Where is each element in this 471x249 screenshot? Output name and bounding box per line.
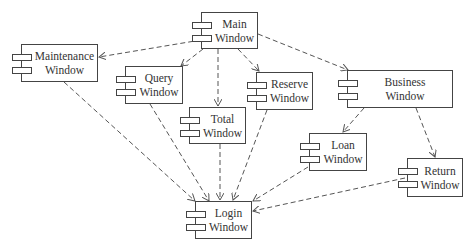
component-return[interactable]: Return Window xyxy=(407,158,463,197)
component-label: Return Window xyxy=(420,159,460,196)
component-tab-icon xyxy=(338,80,358,87)
component-loan[interactable]: Loan Window xyxy=(309,133,367,171)
component-tab-icon xyxy=(300,143,320,150)
component-tab-icon xyxy=(186,211,206,218)
component-tab-icon xyxy=(300,156,320,163)
dependency-main-to-business xyxy=(258,34,348,70)
component-tab-icon xyxy=(186,224,206,231)
component-tab-icon xyxy=(116,76,136,83)
component-tab-icon xyxy=(180,117,200,124)
component-label: Total Window xyxy=(202,108,243,143)
component-label: Loan Window xyxy=(322,134,364,170)
dependency-loan-to-login xyxy=(253,167,308,201)
component-tab-icon xyxy=(247,95,267,102)
component-total[interactable]: Total Window xyxy=(189,107,246,144)
component-tab-icon xyxy=(116,89,136,96)
component-label: Query Window xyxy=(138,67,180,103)
component-tab-icon xyxy=(338,93,358,100)
dependency-business-to-return xyxy=(416,108,435,157)
dependency-main-to-maintenance xyxy=(99,40,201,57)
component-tab-icon xyxy=(180,130,200,137)
component-query[interactable]: Query Window xyxy=(125,66,183,104)
component-tab-icon xyxy=(398,181,418,188)
component-label: Reserve Window xyxy=(269,73,310,109)
dependency-business-to-loan xyxy=(343,108,364,132)
dependency-main-to-query xyxy=(181,49,203,66)
dependency-return-to-login xyxy=(253,178,405,211)
component-reserve[interactable]: Reserve Window xyxy=(256,72,313,110)
component-main[interactable]: Main Window xyxy=(201,12,258,49)
component-label: Login Window xyxy=(208,202,249,238)
component-label: Maintenance Window xyxy=(34,45,95,81)
component-tab-icon xyxy=(398,168,418,175)
dependency-main-to-reserve xyxy=(238,49,259,71)
component-label: Business Window xyxy=(360,71,450,107)
component-tab-icon xyxy=(12,54,32,61)
component-login[interactable]: Login Window xyxy=(195,201,252,239)
component-label: Main Window xyxy=(214,13,255,48)
component-tab-icon xyxy=(12,67,32,74)
component-business[interactable]: Business Window xyxy=(347,70,453,108)
component-tab-icon xyxy=(247,82,267,89)
component-maintenance[interactable]: Maintenance Window xyxy=(21,44,98,82)
component-tab-icon xyxy=(192,22,212,29)
component-tab-icon xyxy=(192,35,212,42)
